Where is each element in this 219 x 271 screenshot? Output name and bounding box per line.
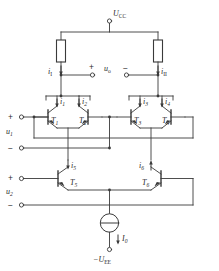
circuit-figure: UCC uo + − iI iII i1 i2 i3 i4 T1 T2 T3 T… <box>0 0 219 271</box>
label-transistor-T1: T1 <box>51 117 58 125</box>
input-u1-plus-sign: + <box>8 113 13 122</box>
label-current-i-3: i3 <box>143 98 148 106</box>
label-current-I-0: I0 <box>122 235 127 243</box>
label-transistor-T6: T6 <box>142 179 149 187</box>
vcc-terminal-node[interactable] <box>107 19 111 23</box>
junction-dot <box>157 95 160 98</box>
junction-dot <box>108 189 111 192</box>
label-current-i-4: i4 <box>165 98 170 106</box>
label-input-u2: u2 <box>6 188 13 196</box>
label-output-voltage: uo <box>104 65 111 73</box>
current-arrow-i-6 <box>149 160 153 170</box>
label-transistor-T4: T4 <box>162 117 169 125</box>
transistor-T5 <box>24 167 68 190</box>
current-arrow-i-II <box>156 66 160 76</box>
label-current-i-I: iI <box>48 68 52 76</box>
label-current-i-2: i2 <box>82 98 87 106</box>
current-arrow-i-I <box>59 66 63 76</box>
input-u1-minus-sign: − <box>8 144 13 153</box>
emitter-bus-left-pair <box>57 128 79 160</box>
schematic-svg <box>0 0 219 271</box>
junction-dot <box>33 116 36 119</box>
label-input-u1: u1 <box>6 128 13 136</box>
junction-dot <box>108 116 111 119</box>
input-u2-minus-sign: − <box>8 201 13 210</box>
vee-terminal-node[interactable] <box>107 247 111 251</box>
label-current-i-1: i1 <box>60 98 65 106</box>
tail-current-source <box>100 214 118 247</box>
input-u2-minus-wire <box>24 179 193 206</box>
label-current-i-5: i5 <box>71 162 76 170</box>
tail-node-wiring <box>68 190 151 214</box>
junction-dot <box>108 147 111 150</box>
supply-rail-top <box>61 23 158 40</box>
current-arrow-I-0 <box>116 235 120 245</box>
input-terminal-u2-positive[interactable] <box>19 176 23 180</box>
output-plus-sign: + <box>89 63 94 72</box>
label-transistor-T3: T3 <box>134 117 141 125</box>
output-terminal-negative[interactable] <box>124 73 128 77</box>
input-u1-minus-wire <box>24 117 110 148</box>
output-minus-sign: − <box>123 64 128 73</box>
label-transistor-T5: T5 <box>70 179 77 187</box>
label-vee: −UEE <box>93 256 111 264</box>
input-terminal-u2-negative[interactable] <box>19 203 23 207</box>
input-terminal-u1-positive[interactable] <box>19 115 23 119</box>
transistor-T6 <box>151 167 193 190</box>
label-current-i-6: i6 <box>139 162 144 170</box>
label-transistor-T2: T2 <box>79 117 86 125</box>
input-terminal-u1-negative[interactable] <box>19 146 23 150</box>
label-vcc: UCC <box>113 10 126 18</box>
label-current-i-II: iII <box>161 68 167 76</box>
emitter-bus-right-pair <box>140 128 162 160</box>
output-terminal-positive[interactable] <box>90 73 94 77</box>
input-u2-plus-sign: + <box>8 174 13 183</box>
